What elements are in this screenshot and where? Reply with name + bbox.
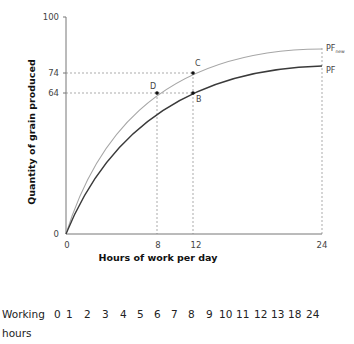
y-tick-label-0: 0 [54,229,59,239]
point-d-marker [155,91,159,95]
working-hours-table: Working hours 0 1 2 3 4 5 6 7 8 9 10 11 … [2,305,354,344]
hours-value: 24 [306,305,319,324]
hours-value: 2 [84,305,91,324]
hours-value: 13 [271,305,284,324]
x-tick-label-8: 8 [155,240,160,250]
reference-lines [66,48,322,234]
hours-value: 3 [102,305,109,324]
curve-pf [66,66,322,234]
hours-value: 18 [288,305,301,324]
y-axis-title: Quantity of grain produced [26,59,37,205]
production-function-chart: D C B PFnew PF 100 74 64 0 0 8 12 24 Hou… [0,0,354,300]
point-b-label: B [196,95,202,104]
curve-pf-new-label-sub: new [335,49,345,54]
point-d-label: D [150,82,156,91]
y-tick-label-74: 74 [48,68,59,78]
curve-pf-new [66,49,322,234]
hours-value: 8 [188,305,195,324]
point-c-label: C [195,59,201,68]
point-b-marker [191,91,195,95]
working-hours-label-line1: Working [2,305,50,324]
x-tick-label-12: 12 [191,240,202,250]
x-tick-label-0: 0 [64,240,69,250]
working-hours-label-line2: hours [2,324,50,343]
y-tick-label-64: 64 [48,88,59,98]
hours-value: 4 [120,305,127,324]
curve-pf-label: PF [326,66,336,75]
hours-value: 11 [236,305,249,324]
hours-value: 9 [206,305,213,324]
hours-value: 5 [137,305,144,324]
hours-value: 10 [219,305,232,324]
hours-value: 6 [154,305,161,324]
point-c-marker [191,71,195,75]
curve-pf-new-label: PFnew [326,44,345,54]
hours-value: 1 [66,305,73,324]
x-tick-label-24: 24 [317,240,328,250]
y-tick-label-100: 100 [43,12,59,22]
curve-pf-new-label-main: PF [326,44,336,53]
hours-value: 12 [254,305,267,324]
hours-value: 0 [54,305,61,324]
working-hours-label: Working hours [2,305,50,343]
axes [63,17,322,234]
hours-value: 7 [171,305,178,324]
x-axis-title: Hours of work per day [99,252,219,263]
